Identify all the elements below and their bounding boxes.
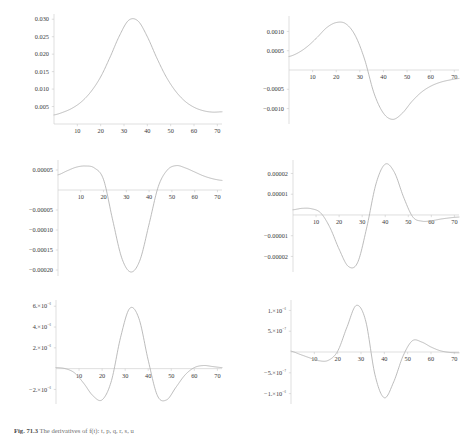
data-curve — [58, 166, 222, 272]
y-tick-label: −0.00020 — [29, 266, 53, 273]
x-tick-label: 30 — [121, 127, 127, 134]
y-tick-label: 0.0010 — [267, 28, 284, 35]
x-tick-label: 30 — [122, 372, 128, 379]
x-tick-label: 60 — [191, 372, 197, 379]
y-tick-label: 1.×10⁻⁶ — [268, 307, 287, 314]
plot-area: 10203040506070−0.0010−0.00050.00050.0010 — [243, 6, 463, 146]
x-tick-label: 20 — [336, 218, 342, 225]
x-tick-label: 20 — [100, 193, 106, 200]
y-tick-label: −0.00001 — [264, 232, 288, 239]
y-tick-label: 0.00002 — [268, 170, 288, 177]
chart-panel-4: 10203040506070−0.00002−0.000010.000010.0… — [243, 152, 463, 286]
x-tick-label: 50 — [168, 372, 174, 379]
y-tick-label: 0.025 — [35, 33, 49, 40]
y-tick-label: 0.015 — [35, 68, 49, 75]
x-tick-label: 70 — [214, 193, 220, 200]
y-tick-label: 0.010 — [35, 85, 49, 92]
y-tick-label: 0.030 — [35, 15, 49, 22]
y-tick-label: 4.×10⁻⁶ — [33, 323, 52, 330]
y-tick-label: −0.0005 — [263, 85, 284, 92]
x-tick-label: 50 — [404, 73, 410, 80]
x-tick-label: 40 — [145, 372, 151, 379]
plot-area: 102030405060700.0050.0100.0150.0200.0250… — [8, 6, 226, 146]
y-tick-label: −0.00010 — [29, 226, 53, 233]
chart-panel-3: 10203040506070−0.00020−0.00015−0.00010−0… — [8, 152, 226, 286]
x-tick-label: 50 — [405, 218, 411, 225]
chart-panel-6: 10203040506070−1.×10⁻⁶−5.×10⁻⁷5.×10⁻⁷1.×… — [243, 292, 463, 420]
y-tick-label: 2.×10⁻⁶ — [33, 344, 52, 351]
x-tick-label: 70 — [214, 372, 220, 379]
data-curve — [291, 305, 459, 398]
x-tick-label: 30 — [359, 218, 365, 225]
x-tick-label: 40 — [382, 218, 388, 225]
plot-area: 10203040506070−0.00002−0.000010.000010.0… — [243, 152, 463, 286]
x-tick-label: 50 — [168, 127, 174, 134]
y-tick-label: 6.×10⁻⁶ — [33, 302, 52, 309]
data-curve — [293, 164, 459, 268]
x-tick-label: 20 — [333, 73, 339, 80]
y-tick-label: −0.00002 — [264, 253, 288, 260]
y-tick-label: 0.020 — [35, 50, 49, 57]
x-tick-label: 10 — [74, 127, 80, 134]
caption-label: Fig. 71.3 — [14, 427, 38, 434]
x-tick-label: 40 — [381, 355, 387, 362]
y-tick-label: 0.0005 — [267, 47, 284, 54]
x-tick-label: 10 — [313, 218, 319, 225]
y-tick-label: −0.0010 — [263, 105, 284, 112]
y-tick-label: −5.×10⁻⁷ — [264, 369, 286, 376]
figure-caption: Fig. 71.3 The derivatives of f(t): t, p,… — [14, 427, 464, 435]
caption-text: The derivatives of f(t): t, p, q, r, s, … — [40, 427, 134, 434]
x-tick-label: 10 — [78, 193, 84, 200]
x-tick-label: 60 — [428, 73, 434, 80]
plot-area: 10203040506070−1.×10⁻⁶−5.×10⁻⁷5.×10⁻⁷1.×… — [243, 292, 463, 420]
x-tick-label: 50 — [169, 193, 175, 200]
data-curve — [56, 307, 222, 401]
y-tick-label: 0.00005 — [33, 166, 53, 173]
x-tick-label: 10 — [309, 73, 315, 80]
x-tick-label: 60 — [191, 127, 197, 134]
x-tick-label: 20 — [335, 355, 341, 362]
x-tick-label: 50 — [405, 355, 411, 362]
x-tick-label: 40 — [144, 127, 150, 134]
x-tick-label: 30 — [358, 355, 364, 362]
plot-area: 10203040506070−0.00020−0.00015−0.00010−0… — [8, 152, 226, 286]
x-tick-label: 70 — [214, 127, 220, 134]
x-tick-label: 20 — [99, 372, 105, 379]
x-tick-label: 40 — [146, 193, 152, 200]
data-curve — [54, 19, 222, 115]
x-tick-label: 20 — [98, 127, 104, 134]
y-tick-label: −2.×10⁻⁶ — [29, 386, 51, 393]
y-tick-label: −0.00005 — [29, 206, 53, 213]
y-tick-label: −0.00015 — [29, 246, 53, 253]
x-tick-label: 60 — [428, 355, 434, 362]
y-tick-label: 0.005 — [35, 103, 49, 110]
x-tick-label: 30 — [357, 73, 363, 80]
x-tick-label: 60 — [192, 193, 198, 200]
x-tick-label: 30 — [123, 193, 129, 200]
x-tick-label: 40 — [380, 73, 386, 80]
data-curve — [289, 22, 459, 119]
chart-panel-2: 10203040506070−0.0010−0.00050.00050.0010 — [243, 6, 463, 146]
chart-panel-1: 102030405060700.0050.0100.0150.0200.0250… — [8, 6, 226, 146]
figure-container: 102030405060700.0050.0100.0150.0200.0250… — [0, 0, 469, 438]
plot-area: 10203040506070−2.×10⁻⁶2.×10⁻⁶4.×10⁻⁶6.×1… — [8, 292, 226, 420]
y-tick-label: 0.00001 — [268, 190, 288, 197]
x-tick-label: 70 — [451, 218, 457, 225]
x-tick-label: 70 — [451, 355, 457, 362]
chart-panel-5: 10203040506070−2.×10⁻⁶2.×10⁻⁶4.×10⁻⁶6.×1… — [8, 292, 226, 420]
y-tick-label: 5.×10⁻⁷ — [268, 327, 287, 334]
y-tick-label: −1.×10⁻⁶ — [264, 390, 286, 397]
